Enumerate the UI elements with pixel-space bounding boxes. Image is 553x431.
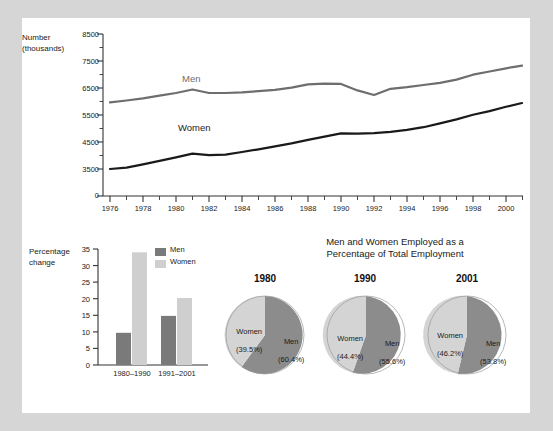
figure-page: Number (thousands) [0,0,553,431]
pie-1990-men-value: (55.6%) [379,357,405,366]
pie-1990-label-women: Women (44.4%) [325,325,367,370]
pie-1990-women-name: Women [337,334,363,343]
pie-1980-men-value: (60.4%) [278,355,304,364]
pie-1980-label-women: Women (39.5%) [224,318,266,363]
pie-1990-men-name: Men [385,339,400,348]
pie-1980-men-name: Men [284,337,299,346]
pie-1980-label-men: Men (60.4%) [266,328,308,373]
pie-1980-women-value: (39.5%) [236,345,262,354]
pie-2001-women-value: (46.2%) [437,349,463,358]
pie-2001-label-men: Men (53.8%) [468,330,510,375]
pie-1980-women-name: Women [236,327,262,336]
pie-2001-men-name: Men [486,339,501,348]
pie-2001-label-women: Women (46.2%) [424,322,468,367]
pie-1990-label-men: Men (55.6%) [367,330,409,375]
pie-1990-women-value: (44.4%) [337,352,363,361]
pie-2001-women-name: Women [437,331,463,340]
pie-2001-men-value: (53.8%) [480,357,506,366]
